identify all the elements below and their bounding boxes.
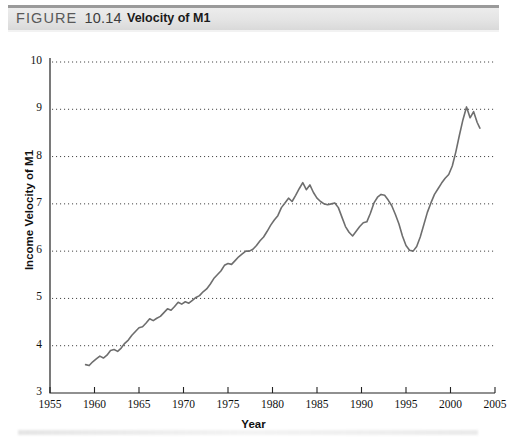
axis-lines bbox=[50, 58, 495, 393]
x-tick-label-2000: 2000 bbox=[429, 398, 473, 410]
y-tick-label-7: 7 bbox=[16, 196, 42, 208]
y-tick-label-3: 3 bbox=[16, 385, 42, 397]
x-tick-label-1970: 1970 bbox=[162, 398, 206, 410]
x-tick-label-1965: 1965 bbox=[117, 398, 161, 410]
x-tick-label-1955: 1955 bbox=[28, 398, 72, 410]
figure-title: Velocity of M1 bbox=[127, 11, 210, 25]
series-line-income-velocity-of-m1 bbox=[86, 107, 480, 366]
y-tick-label-6: 6 bbox=[16, 243, 42, 255]
chart-area: Income Velocity of M1 Year 345678910 195… bbox=[0, 36, 507, 438]
gridlines bbox=[52, 62, 495, 346]
header-bottom-rule bbox=[8, 30, 499, 32]
y-tick-label-8: 8 bbox=[16, 149, 42, 161]
x-tick-label-1985: 1985 bbox=[295, 398, 339, 410]
y-tick-label-5: 5 bbox=[16, 290, 42, 302]
x-tick-label-2005: 2005 bbox=[473, 398, 507, 410]
x-tick-marks bbox=[50, 387, 495, 393]
velocity-line-chart bbox=[0, 36, 507, 438]
y-tick-label-4: 4 bbox=[16, 338, 42, 350]
y-tick-label-9: 9 bbox=[16, 101, 42, 113]
axis-frame bbox=[50, 58, 495, 393]
figure-container: FIGURE10.14 Velocity of M1 Income Veloci… bbox=[0, 0, 507, 438]
x-tick-label-1995: 1995 bbox=[384, 398, 428, 410]
figure-label-text: FIGURE bbox=[16, 10, 77, 26]
x-tick-label-1975: 1975 bbox=[206, 398, 250, 410]
x-tick-label-1980: 1980 bbox=[251, 398, 295, 410]
y-tick-label-10: 10 bbox=[16, 54, 42, 66]
page-footer-smudge bbox=[18, 430, 478, 435]
figure-label: FIGURE10.14 bbox=[16, 10, 122, 26]
figure-number: 10.14 bbox=[84, 10, 121, 26]
x-tick-label-1960: 1960 bbox=[73, 398, 117, 410]
x-tick-label-1990: 1990 bbox=[340, 398, 384, 410]
